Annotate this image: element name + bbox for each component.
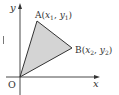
origin-label: O (8, 79, 16, 90)
y-axis-label: y (9, 2, 16, 13)
triangle-oab (20, 21, 72, 77)
y-axis-arrow-icon (18, 3, 22, 9)
point-b-close: ) (109, 45, 113, 55)
coordinate-diagram: y x O A(x1, y1) B(x2, y2) (0, 0, 119, 95)
point-b-label: B(x2, y2) (75, 45, 112, 56)
point-a-close: ) (69, 10, 73, 20)
x-axis-label: x (93, 78, 99, 89)
point-a-label: A(x1, y1) (34, 10, 72, 21)
